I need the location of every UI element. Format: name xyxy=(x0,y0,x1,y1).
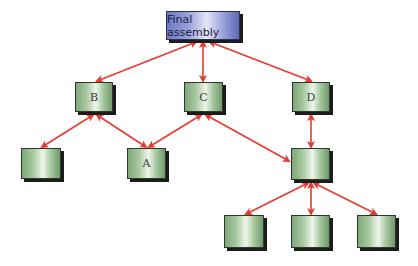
node-d: D xyxy=(292,82,330,112)
node-e3 xyxy=(357,215,396,248)
node-label: A xyxy=(143,157,151,170)
bidirectional-arrows xyxy=(42,42,376,214)
node-label: Final assembly xyxy=(167,13,239,39)
node-label: C xyxy=(199,91,207,104)
arrow-E-E3 xyxy=(314,183,376,214)
node-c: C xyxy=(184,82,223,112)
node-label: D xyxy=(307,91,316,104)
node-e1 xyxy=(224,215,264,248)
node-b1 xyxy=(21,148,61,179)
arrow-C-E xyxy=(206,115,289,161)
arrow-B-A xyxy=(97,115,146,147)
node-root: Final assembly xyxy=(166,11,240,40)
arrow-root-D xyxy=(210,42,311,81)
node-b: B xyxy=(75,82,113,112)
arrow-B-B1 xyxy=(42,115,93,147)
arrow-E-E1 xyxy=(246,183,308,214)
node-e xyxy=(291,148,330,180)
node-label: B xyxy=(90,91,98,104)
tree-diagram: Final assemblyBCDA xyxy=(0,0,418,266)
arrow-C-A xyxy=(149,115,201,147)
node-a: A xyxy=(127,148,166,179)
node-e2 xyxy=(291,215,330,248)
arrow-root-B xyxy=(97,42,196,81)
